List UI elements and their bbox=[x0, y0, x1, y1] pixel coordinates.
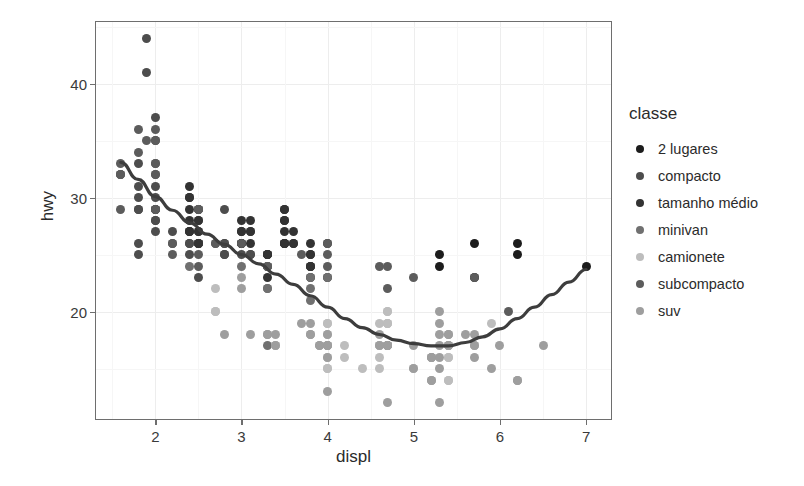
legend-key-icon bbox=[629, 172, 651, 180]
legend-item-label: 2 lugares bbox=[651, 141, 718, 157]
legend-item-label: subcompacto bbox=[651, 276, 744, 292]
legend-dot-icon bbox=[636, 145, 644, 153]
x-tick-mark bbox=[155, 420, 156, 425]
legend: classe 2 lugarescompactotamanho médiomin… bbox=[629, 104, 799, 324]
legend-dot-icon bbox=[636, 199, 644, 207]
legend-dot-icon bbox=[636, 253, 644, 261]
x-tick-label: 5 bbox=[410, 428, 418, 445]
x-tick-mark bbox=[500, 420, 501, 425]
legend-dot-icon bbox=[636, 226, 644, 234]
legend-key-icon bbox=[629, 280, 651, 288]
x-tick-label: 7 bbox=[582, 428, 590, 445]
legend-item[interactable]: suv bbox=[629, 297, 799, 324]
x-tick-mark bbox=[414, 420, 415, 425]
legend-dot-icon bbox=[636, 280, 644, 288]
legend-item-label: minivan bbox=[651, 222, 708, 238]
smooth-trend-line bbox=[95, 21, 612, 420]
legend-key-icon bbox=[629, 145, 651, 153]
legend-item-label: tamanho médio bbox=[651, 195, 758, 211]
legend-item[interactable]: camionete bbox=[629, 243, 799, 270]
legend-title: classe bbox=[629, 104, 799, 124]
y-tick-label: 30 bbox=[45, 189, 87, 206]
scatter-plot-figure: displ hwy classe 2 lugarescompactotamanh… bbox=[0, 0, 804, 486]
legend-key-icon bbox=[629, 253, 651, 261]
legend-item-label: suv bbox=[651, 303, 681, 319]
legend-item[interactable]: compacto bbox=[629, 162, 799, 189]
x-axis-label: displ bbox=[0, 447, 707, 467]
x-tick-mark bbox=[328, 420, 329, 425]
x-tick-label: 3 bbox=[237, 428, 245, 445]
legend-item-label: compacto bbox=[651, 168, 721, 184]
legend-item[interactable]: tamanho médio bbox=[629, 189, 799, 216]
legend-item[interactable]: subcompacto bbox=[629, 270, 799, 297]
y-tick-label: 40 bbox=[45, 75, 87, 92]
x-tick-label: 4 bbox=[323, 428, 331, 445]
legend-item[interactable]: 2 lugares bbox=[629, 135, 799, 162]
x-tick-mark bbox=[586, 420, 587, 425]
plot-panel bbox=[95, 21, 612, 420]
legend-dot-icon bbox=[636, 172, 644, 180]
legend-item-label: camionete bbox=[651, 249, 725, 265]
legend-key-icon bbox=[629, 226, 651, 234]
x-tick-label: 6 bbox=[496, 428, 504, 445]
y-tick-label: 20 bbox=[45, 303, 87, 320]
legend-key-icon bbox=[629, 307, 651, 315]
legend-item[interactable]: minivan bbox=[629, 216, 799, 243]
legend-key-icon bbox=[629, 199, 651, 207]
legend-dot-icon bbox=[636, 307, 644, 315]
legend-items: 2 lugarescompactotamanho médiominivancam… bbox=[629, 135, 799, 324]
x-tick-label: 2 bbox=[151, 428, 159, 445]
x-tick-mark bbox=[241, 420, 242, 425]
